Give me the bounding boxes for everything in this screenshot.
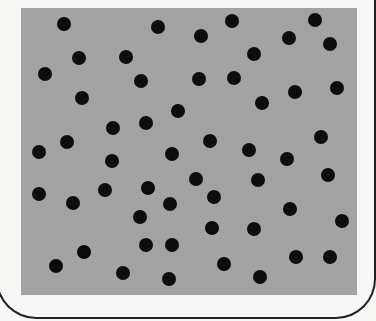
dot [133,210,147,224]
dot [72,51,86,65]
dot [165,238,179,252]
dot [32,187,46,201]
dot [189,172,203,186]
dot [134,74,148,88]
dot [205,221,219,235]
dot [280,152,294,166]
dot [60,135,74,149]
dot [49,259,63,273]
dot [247,222,261,236]
dot [207,190,221,204]
dot [203,134,217,148]
dot [139,238,153,252]
dot [105,154,119,168]
dot [251,173,265,187]
dot [227,71,241,85]
dot [282,31,296,45]
dot [253,270,267,284]
dot [141,181,155,195]
dot [247,47,261,61]
dot [38,67,52,81]
dot [321,168,335,182]
dot [225,14,239,28]
dot [116,266,130,280]
dot [75,91,89,105]
dot [255,96,269,110]
dot [308,13,322,27]
dot [217,257,231,271]
dot [283,202,297,216]
dot [335,214,349,228]
dot [119,50,133,64]
dot [57,17,71,31]
dot [194,29,208,43]
dot [162,272,176,286]
dot [66,196,80,210]
dot [323,250,337,264]
dot [242,143,256,157]
dot [314,130,328,144]
dot [163,197,177,211]
dot [151,20,165,34]
dot [98,183,112,197]
dot [77,245,91,259]
dot [323,37,337,51]
dot [32,145,46,159]
dot [192,72,206,86]
dot [330,81,344,95]
dot-field [21,8,357,295]
dot [106,121,120,135]
dot [171,104,185,118]
dot [139,116,153,130]
dot [289,250,303,264]
dot [165,147,179,161]
dot [288,85,302,99]
